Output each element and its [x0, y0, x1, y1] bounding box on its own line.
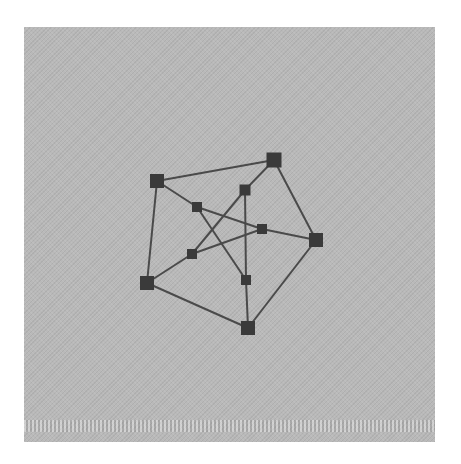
petersen-graph: [0, 0, 461, 464]
edge-a-c: [197, 207, 262, 229]
edge-D-E: [147, 283, 248, 328]
edge-B-C: [274, 160, 316, 240]
node-b: [240, 185, 251, 196]
node-E: [140, 276, 154, 290]
edge-C-D: [248, 240, 316, 328]
node-c: [257, 224, 267, 234]
node-d: [241, 275, 251, 285]
node-D: [241, 321, 255, 335]
node-B: [267, 153, 282, 168]
edge-D-d: [246, 280, 248, 328]
node-C: [309, 233, 323, 247]
graph-edges: [147, 160, 316, 328]
node-e: [187, 249, 197, 259]
edge-E-A: [147, 181, 157, 283]
node-A: [150, 174, 164, 188]
node-a: [192, 202, 202, 212]
edge-C-c: [262, 229, 316, 240]
edge-b-d: [245, 190, 246, 280]
